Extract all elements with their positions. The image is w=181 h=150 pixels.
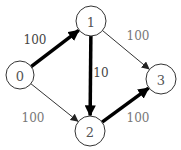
edge-weight-label: 100 [22,111,45,125]
node-label: 0 [16,69,24,84]
graph-node-1: 1 [76,6,106,36]
edge-weight-label: 100 [127,111,150,125]
graph-node-2: 2 [75,116,105,146]
edge-weight-label: 100 [24,33,47,47]
node-label: 1 [87,15,95,30]
edge-labels-layer: 10010100100100 [22,29,150,125]
graph-node-3: 3 [146,64,176,94]
graph-node-0: 0 [6,61,34,89]
edge-weight-label: 10 [93,66,108,80]
edge-weight-label: 100 [127,29,150,43]
edges-layer [31,30,149,122]
edge-1-to-2 [90,36,91,116]
node-label: 2 [86,125,94,140]
node-label: 3 [157,73,165,88]
graph-diagram: 0123 10010100100100 [0,0,181,150]
